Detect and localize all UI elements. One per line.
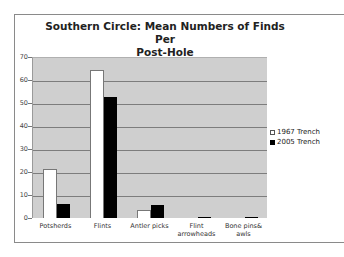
x-tick-label-line: arrowheads (173, 230, 220, 238)
bar-1967 (90, 70, 104, 218)
legend-swatch-1967 (270, 130, 275, 135)
y-tick-label: 0 (14, 214, 28, 222)
x-tick-label-line: Potsherds (32, 222, 79, 230)
legend-item-2005: 2005 Trench (270, 137, 320, 147)
x-tick-label-line: Antler picks (126, 222, 173, 230)
y-tick-label: 20 (14, 168, 28, 176)
x-tick-label: Potsherds (32, 222, 79, 230)
x-tick-label: Bone pins&awls (220, 222, 267, 238)
gridline (33, 81, 267, 82)
plot-area (32, 57, 267, 218)
y-tick-label: 60 (14, 76, 28, 84)
legend-label-1967: 1967 Trench (277, 127, 320, 137)
legend: 1967 Trench 2005 Trench (270, 127, 320, 147)
x-tick-label-line: Bone pins& (220, 222, 267, 230)
bar-2005 (151, 205, 165, 218)
bar-2005 (57, 204, 71, 218)
y-tick-label: 40 (14, 122, 28, 130)
bar-1967 (137, 210, 151, 218)
gridline (33, 150, 267, 151)
y-tick-label: 50 (14, 99, 28, 107)
chart-title: Southern Circle: Mean Numbers of Finds P… (40, 20, 290, 59)
chart-title-line-1: Southern Circle: Mean Numbers of Finds P… (40, 20, 290, 46)
x-tick-label: Flints (79, 222, 126, 230)
y-tick-label: 10 (14, 191, 28, 199)
bar-2005 (245, 217, 259, 218)
bar-2005 (198, 217, 212, 218)
gridline (33, 127, 267, 128)
x-tick-label-line: awls (220, 230, 267, 238)
x-tick-label-line: Flints (79, 222, 126, 230)
y-tick-label: 70 (14, 53, 28, 61)
bar-1967 (43, 169, 57, 218)
x-tick-label: Antler picks (126, 222, 173, 230)
x-tick-label: Flintarrowheads (173, 222, 220, 238)
legend-label-2005: 2005 Trench (277, 137, 320, 147)
y-tick-mark (28, 218, 32, 219)
legend-swatch-2005 (270, 140, 275, 145)
gridline (33, 196, 267, 197)
bar-2005 (104, 97, 118, 218)
gridline (33, 104, 267, 105)
y-tick-label: 30 (14, 145, 28, 153)
legend-item-1967: 1967 Trench (270, 127, 320, 137)
x-tick-label-line: Flint (173, 222, 220, 230)
gridline (33, 173, 267, 174)
